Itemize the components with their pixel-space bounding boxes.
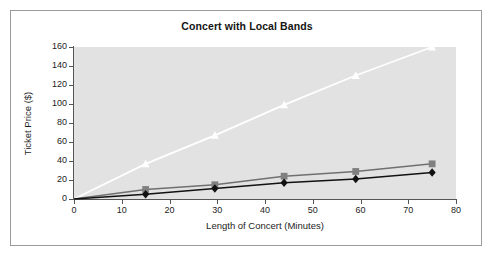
y-tick-label: 160 xyxy=(11,42,67,51)
data-point-marker xyxy=(429,168,436,177)
series-plot-svg xyxy=(74,47,456,199)
series-line xyxy=(74,164,432,199)
x-tick-label: 70 xyxy=(388,205,428,215)
series-gray-square-series xyxy=(74,160,436,199)
y-tick-label: 60 xyxy=(11,137,67,146)
x-tick-mark xyxy=(361,200,362,204)
y-tick-label: 40 xyxy=(11,156,67,165)
series-line xyxy=(74,172,432,199)
y-tick-label: 80 xyxy=(11,118,67,127)
y-tick-label: 0 xyxy=(11,194,67,203)
x-axis-title: Length of Concert (Minutes) xyxy=(74,220,456,231)
x-tick-mark xyxy=(265,200,266,204)
data-point-marker xyxy=(281,173,288,180)
data-point-marker xyxy=(352,175,359,184)
x-tick-mark xyxy=(408,200,409,204)
x-tick-mark xyxy=(74,200,75,204)
x-tick-label: 20 xyxy=(150,205,190,215)
y-tick-label: 100 xyxy=(11,99,67,108)
chart-figure-frame: Concert with Local Bands Ticket Price ($… xyxy=(10,10,482,246)
series-line xyxy=(74,47,432,199)
y-tick-label: 120 xyxy=(11,80,67,89)
data-point-marker xyxy=(429,160,436,167)
data-point-marker xyxy=(428,43,436,51)
series-white-triangle-series xyxy=(74,43,436,199)
x-tick-label: 80 xyxy=(436,205,476,215)
x-tick-label: 10 xyxy=(102,205,142,215)
x-tick-label: 50 xyxy=(293,205,333,215)
plot-area xyxy=(74,47,456,199)
data-point-marker xyxy=(281,179,288,188)
y-tick-label: 140 xyxy=(11,61,67,70)
chart-title: Concert with Local Bands xyxy=(11,20,483,32)
x-tick-mark xyxy=(170,200,171,204)
x-tick-mark xyxy=(456,200,457,204)
x-tick-mark xyxy=(122,200,123,204)
x-tick-mark xyxy=(313,200,314,204)
data-point-marker xyxy=(352,168,359,175)
x-tick-label: 60 xyxy=(341,205,381,215)
y-tick-label: 20 xyxy=(11,175,67,184)
x-tick-mark xyxy=(217,200,218,204)
x-tick-label: 0 xyxy=(54,205,94,215)
x-tick-label: 30 xyxy=(197,205,237,215)
x-tick-label: 40 xyxy=(245,205,285,215)
